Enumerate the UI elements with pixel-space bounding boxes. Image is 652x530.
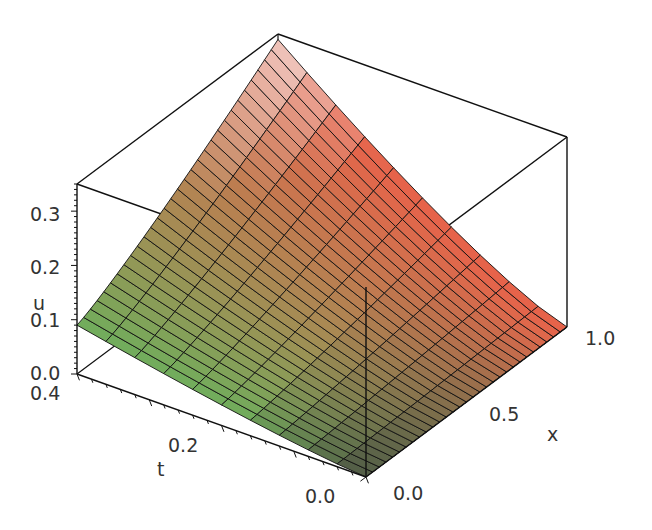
x-tick-0.0: 0.0 <box>393 484 423 503</box>
u-tick-0.0: 0.0 <box>30 364 60 383</box>
surface-plot <box>0 0 652 530</box>
u-tick-0.2: 0.2 <box>30 258 60 277</box>
t-tick-0.0: 0.0 <box>305 487 335 506</box>
t-tick-0.4: 0.4 <box>30 384 60 403</box>
x-tick-0.5: 0.5 <box>489 405 519 424</box>
x-tick-1.0: 1.0 <box>585 329 615 348</box>
x-tick <box>360 477 366 481</box>
t-tick <box>366 477 368 483</box>
t-axis-label: t <box>157 460 164 479</box>
u-axis-label: u <box>33 294 45 313</box>
u-tick-0.3: 0.3 <box>30 205 60 224</box>
t-tick-0.2: 0.2 <box>168 436 198 455</box>
x-axis-label: x <box>547 425 558 444</box>
